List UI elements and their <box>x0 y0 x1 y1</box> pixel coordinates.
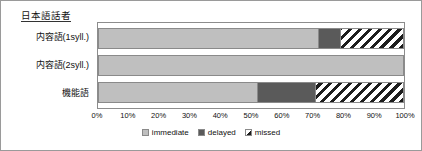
y-axis-label-content-1syll: 内容語(1syll.) <box>1 27 93 48</box>
bar-segment-delayed <box>318 28 339 49</box>
legend-swatch-immediate-icon <box>142 129 149 136</box>
legend-item-delayed: delayed <box>198 128 236 137</box>
x-axis-tick-30: 30% <box>182 111 197 120</box>
legend-item-missed: missed <box>245 128 280 137</box>
legend-item-immediate: immediate <box>142 128 189 137</box>
x-axis-tick-60: 60% <box>274 111 289 120</box>
bar-segment-immediate <box>98 55 404 76</box>
table-row <box>98 55 404 76</box>
bar-segment-immediate <box>98 82 257 103</box>
stacked-bar-content-1syll <box>98 28 404 49</box>
stacked-bar-function-word <box>98 82 404 103</box>
page-title: 日本語話者 <box>21 10 71 22</box>
x-axis-tick-50: 50% <box>243 111 258 120</box>
y-axis-category-labels: 内容語(1syll.) 内容語(2syll.) 機能語 <box>1 22 93 109</box>
legend-label-immediate: immediate <box>152 128 189 137</box>
legend-label-missed: missed <box>255 128 280 137</box>
bar-segment-immediate <box>98 28 318 49</box>
bar-segment-missed <box>315 82 404 103</box>
x-axis-tick-0: 0% <box>92 111 103 120</box>
x-axis-tick-labels: 0%10%20%30%40%50%60%70%80%90%100% <box>97 110 405 122</box>
y-axis-label-content-2syll: 内容語(2syll.) <box>1 55 93 76</box>
y-axis-label-function-word: 機能語 <box>1 83 93 104</box>
x-axis-tick-20: 20% <box>151 111 166 120</box>
bar-segment-missed <box>340 28 404 49</box>
legend: immediate delayed missed <box>1 128 421 137</box>
x-axis-tick-10: 10% <box>120 111 135 120</box>
x-axis-tick-40: 40% <box>213 111 228 120</box>
bar-segment-delayed <box>257 82 315 103</box>
x-axis-tick-80: 80% <box>336 111 351 120</box>
plot-area <box>97 22 405 109</box>
legend-label-delayed: delayed <box>208 128 236 137</box>
bars-container <box>98 23 404 108</box>
table-row <box>98 82 404 103</box>
table-row <box>98 28 404 49</box>
stacked-bar-content-2syll <box>98 55 404 76</box>
legend-swatch-delayed-icon <box>198 129 205 136</box>
x-axis-tick-70: 70% <box>305 111 320 120</box>
legend-swatch-missed-icon <box>245 129 252 136</box>
x-axis-tick-100: 100% <box>395 111 414 120</box>
x-axis-tick-90: 90% <box>367 111 382 120</box>
chart-figure: 日本語話者 内容語(1syll.) 内容語(2syll.) 機能語 <box>0 0 422 151</box>
